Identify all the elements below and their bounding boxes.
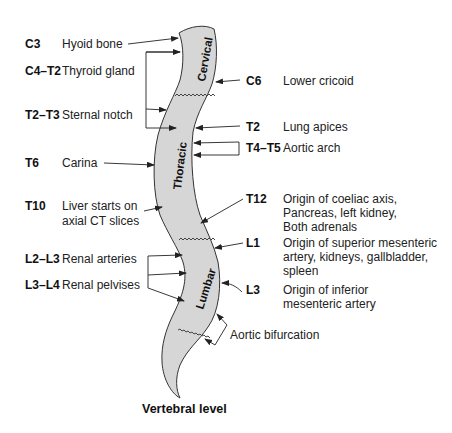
svg-text:Lower cricoid: Lower cricoid	[283, 74, 354, 88]
label-t12: T12 Origin of coeliac axis, Pancreas, le…	[201, 192, 397, 234]
svg-text:Renal pelvises: Renal pelvises	[62, 278, 140, 292]
svg-text:T12: T12	[246, 192, 267, 206]
svg-text:Origin of inferior: Origin of inferior	[283, 283, 368, 297]
svg-text:Origin of superior mesenteric: Origin of superior mesenteric	[283, 236, 437, 250]
svg-text:Renal arteries: Renal arteries	[62, 252, 137, 266]
svg-text:Liver starts on: Liver starts on	[62, 199, 137, 213]
label-t4-t5: T4–T5 Aortic arch	[194, 141, 340, 155]
svg-text:L2–L3: L2–L3	[25, 252, 60, 266]
svg-text:artery, kidneys, gallbladder,: artery, kidneys, gallbladder,	[283, 250, 428, 264]
svg-text:Sternal notch: Sternal notch	[62, 108, 133, 122]
svg-text:T4–T5: T4–T5	[246, 141, 281, 155]
svg-text:mesenteric artery: mesenteric artery	[283, 297, 376, 311]
svg-text:axial CT slices: axial CT slices	[62, 214, 139, 228]
svg-text:L3–L4: L3–L4	[25, 278, 60, 292]
svg-text:Aortic bifurcation: Aortic bifurcation	[230, 328, 319, 342]
svg-text:Carina: Carina	[62, 156, 98, 170]
label-c4-t2: C4–T2 Thyroid gland	[25, 64, 135, 78]
label-l3: L3 Origin of inferior mesenteric artery	[222, 283, 376, 311]
svg-text:spleen: spleen	[283, 264, 318, 278]
label-c3: C3 Hyoid bone	[25, 37, 178, 51]
svg-text:C4–T2: C4–T2	[25, 64, 61, 78]
svg-text:T6: T6	[25, 156, 39, 170]
svg-text:T2–T3: T2–T3	[25, 108, 60, 122]
svg-text:Hyoid bone: Hyoid bone	[62, 37, 123, 51]
label-t2: T2 Lung apices	[196, 120, 348, 134]
svg-text:L1: L1	[246, 236, 260, 250]
svg-text:C6: C6	[246, 74, 262, 88]
diagram-title: Vertebral level	[142, 402, 227, 416]
vertebral-level-diagram: Cervical Thoracic Lumbar C3 Hyoid bone C…	[0, 0, 452, 433]
label-l3-l4: L3–L4 Renal pelvises	[25, 278, 140, 292]
label-t2-t3: T2–T3 Sternal notch	[25, 108, 133, 122]
svg-text:C3: C3	[25, 37, 41, 51]
svg-text:Both adrenals: Both adrenals	[283, 220, 357, 234]
svg-text:L3: L3	[246, 283, 260, 297]
svg-text:Pancreas, left kidney,: Pancreas, left kidney,	[283, 206, 397, 220]
label-t10: T10 Liver starts on axial CT slices	[25, 199, 162, 228]
svg-text:T2: T2	[246, 120, 260, 134]
label-l1: L1 Origin of superior mesenteric artery,…	[215, 236, 437, 278]
svg-text:Lung apices: Lung apices	[283, 120, 348, 134]
svg-text:T10: T10	[25, 199, 46, 213]
label-aortic-bifurcation: Aortic bifurcation	[205, 314, 319, 345]
svg-text:Origin of coeliac axis,: Origin of coeliac axis,	[283, 192, 397, 206]
label-c6: C6 Lower cricoid	[216, 74, 354, 88]
label-t6: T6 Carina	[25, 156, 154, 170]
svg-text:Aortic arch: Aortic arch	[283, 141, 340, 155]
label-l2-l3: L2–L3 Renal arteries	[25, 252, 137, 266]
svg-text:Thyroid gland: Thyroid gland	[62, 64, 135, 78]
